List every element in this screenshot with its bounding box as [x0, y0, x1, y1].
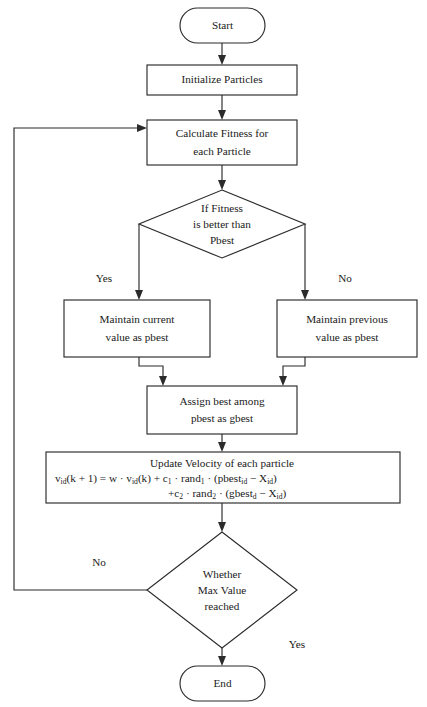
arrowhead-maintain-previous	[301, 290, 309, 300]
arrowhead-maxvalue-decision	[218, 522, 226, 532]
node-maintain-previous[interactable]: Maintain previous value as pbest	[277, 300, 417, 357]
update-velocity-formula-line2: +c2 · rand2 · (gbestd − Xid)	[168, 487, 286, 501]
arrowhead-loop-back	[137, 124, 147, 132]
update-velocity-title: Update Velocity of each particle	[150, 457, 294, 469]
edge-maxvalue-no-loop	[14, 128, 147, 590]
node-update-velocity[interactable]: Update Velocity of each particle vid(k +…	[46, 452, 400, 503]
arrowhead-gbest-left	[159, 376, 167, 386]
arrowhead-initialize	[218, 55, 226, 65]
arrowhead-update-velocity	[218, 442, 226, 452]
calculate-fitness-label-line2: each Particle	[193, 145, 250, 157]
calculate-fitness-label-line1: Calculate Fitness for	[176, 127, 269, 139]
maintain-previous-line2: value as pbest	[316, 331, 380, 343]
maintain-current-line2: value as pbest	[106, 331, 170, 343]
arrowhead-fitness-decision	[218, 180, 226, 190]
end-label: End	[213, 677, 231, 689]
node-start[interactable]: Start	[180, 8, 265, 43]
edge-current-to-gbest	[139, 357, 163, 378]
maintain-current-line1: Maintain current	[100, 313, 176, 325]
max-value-line1: Whether	[203, 568, 242, 580]
node-initialize-particles[interactable]: Initialize Particles	[147, 65, 297, 95]
edge-label-maxvalue-yes: Yes	[289, 638, 305, 650]
node-assign-gbest[interactable]: Assign best among pbest as gbest	[147, 386, 297, 434]
max-value-line3: reached	[205, 600, 240, 612]
start-label: Start	[212, 19, 234, 31]
arrowhead-end	[218, 656, 226, 666]
initialize-label: Initialize Particles	[181, 73, 262, 85]
maintain-current-box-shape	[64, 300, 210, 357]
assign-gbest-line2: pbest as gbest	[191, 412, 254, 424]
node-maintain-current[interactable]: Maintain current value as pbest	[64, 300, 210, 357]
edge-label-maxvalue-no: No	[92, 556, 106, 568]
maintain-previous-line1: Maintain previous	[306, 313, 388, 325]
edge-label-fitness-no: No	[338, 272, 352, 284]
node-calculate-fitness[interactable]: Calculate Fitness for each Particle	[147, 120, 297, 165]
node-max-value-decision[interactable]: Whether Max Value reached	[147, 532, 297, 648]
edge-previous-to-gbest	[283, 357, 305, 378]
assign-gbest-line1: Assign best among	[179, 395, 265, 407]
flowchart-canvas: Start Initialize Particles Calculate Fit…	[0, 0, 427, 707]
max-value-line2: Max Value	[198, 584, 247, 596]
fitness-decision-line2: is better than	[193, 218, 251, 230]
maintain-previous-box-shape	[277, 300, 417, 357]
arrowhead-calculate	[218, 110, 226, 120]
arrowhead-gbest-right	[279, 376, 287, 386]
fitness-decision-line1: If Fitness	[201, 202, 243, 214]
assign-gbest-box-shape	[147, 386, 297, 434]
fitness-decision-line3: Pbest	[210, 234, 235, 246]
arrowhead-maintain-current	[135, 290, 143, 300]
node-fitness-decision[interactable]: If Fitness is better than Pbest	[139, 190, 305, 258]
edge-label-fitness-yes: Yes	[96, 272, 112, 284]
node-end[interactable]: End	[180, 666, 265, 701]
